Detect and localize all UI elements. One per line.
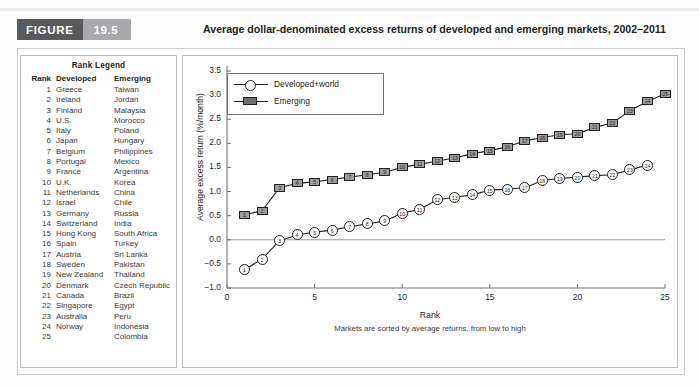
data-point-developed: 6 [327, 225, 338, 236]
cell-rank: 23 [21, 312, 56, 322]
header-rule [0, 8, 699, 11]
cell-emerging: Russia [114, 209, 176, 219]
cell-emerging: Hungary [114, 136, 176, 146]
cell-developed: Canada [56, 291, 114, 301]
table-row: 20DenmarkCzech Republic [21, 281, 176, 291]
y-axis-tick-label: 0.0 [195, 234, 221, 244]
cell-developed: Israel [56, 198, 114, 208]
cell-developed: New Zealand [56, 270, 114, 280]
data-point-emerging: 25 [660, 90, 671, 98]
legend-entry-developed: Developed+world [234, 78, 339, 90]
cell-developed: Hong Kong [56, 229, 114, 239]
table-row: 25Colombia [21, 332, 176, 342]
cell-developed: Italy [56, 126, 114, 136]
legend-entry-emerging: Emerging [234, 95, 310, 107]
cell-rank: 18 [21, 260, 56, 270]
square-marker-icon [234, 95, 268, 107]
cell-developed: Singapore [56, 301, 114, 311]
cell-developed: Australia [56, 312, 114, 322]
cell-emerging: Peru [114, 312, 176, 322]
column-header-rank: Rank [21, 74, 56, 85]
cell-emerging: Egypt [114, 301, 176, 311]
data-point-emerging: 6 [327, 176, 338, 184]
legend-label-emerging: Emerging [274, 96, 310, 106]
cell-emerging: Czech Republic [114, 281, 176, 291]
rank-legend-panel: Rank Legend Rank Developed Emerging 1Gre… [20, 55, 177, 368]
cell-emerging: Malaysia [114, 106, 176, 116]
table-row: 24NorwayIndonesia [21, 322, 176, 332]
cell-rank: 13 [21, 209, 56, 219]
data-point-emerging: 13 [449, 154, 460, 162]
data-point-emerging: 23 [624, 107, 635, 115]
table-row: 5ItalyPoland [21, 126, 176, 136]
cell-emerging: India [114, 219, 176, 229]
data-point-emerging: 4 [292, 179, 303, 187]
cell-emerging: Philippines [114, 147, 176, 157]
y-axis-tick-label: −0.5 [195, 258, 221, 268]
cell-rank: 2 [21, 95, 56, 105]
cell-emerging: Korea [114, 178, 176, 188]
cell-rank: 7 [21, 147, 56, 157]
circle-marker-icon [234, 78, 268, 90]
table-row: 21CanadaBrazil [21, 291, 176, 301]
data-point-emerging: 3 [274, 184, 285, 192]
x-axis-note: Markets are sorted by average returns, f… [183, 324, 677, 333]
cell-rank: 25 [21, 332, 56, 342]
cell-rank: 21 [21, 291, 56, 301]
x-axis-tick-label: 15 [480, 292, 500, 302]
chart-legend: Developed+world Emerging [227, 73, 384, 115]
data-point-developed: 10 [397, 208, 408, 219]
data-point-emerging: 8 [362, 171, 373, 179]
table-row: 1GreeceTaiwan [21, 85, 176, 95]
cell-rank: 1 [21, 85, 56, 95]
cell-developed: U.K. [56, 178, 114, 188]
x-axis-title: Rank [183, 310, 677, 320]
figure-number: 19.5 [83, 19, 131, 40]
table-row: 3FinlandMalaysia [21, 106, 176, 116]
cell-emerging: Taiwan [114, 85, 176, 95]
column-header-emerging: Emerging [114, 74, 176, 85]
cell-emerging: South Africa [114, 229, 176, 239]
data-point-emerging: 22 [607, 119, 618, 127]
cell-developed: Portugal [56, 157, 114, 167]
data-point-developed: 4 [292, 229, 303, 240]
y-axis-tick-label: 1.0 [195, 186, 221, 196]
figure-page: FIGURE 19.5 Average dollar-denominated e… [0, 0, 699, 387]
cell-developed: Denmark [56, 281, 114, 291]
data-point-developed: 20 [572, 172, 583, 183]
table-row: 9FranceArgentina [21, 167, 176, 177]
data-point-developed: 24 [642, 160, 653, 171]
y-axis-tick-label: 1.5 [195, 161, 221, 171]
cell-emerging: Sri Lanka [114, 250, 176, 260]
plot-area: Average excess return (%/month) Rank Mar… [183, 56, 677, 367]
cell-rank: 10 [21, 178, 56, 188]
cell-emerging: Colombia [114, 332, 176, 342]
rank-legend-title: Rank Legend [21, 61, 176, 70]
data-point-emerging: 17 [519, 137, 530, 145]
cell-rank: 9 [21, 167, 56, 177]
table-header-row: Rank Developed Emerging [21, 74, 176, 85]
cell-rank: 22 [21, 301, 56, 311]
cell-rank: 4 [21, 116, 56, 126]
data-point-developed: 16 [502, 184, 513, 195]
cell-developed: Ireland [56, 95, 114, 105]
chart-panel: Average excess return (%/month) Rank Mar… [182, 55, 678, 368]
data-point-developed: 18 [537, 175, 548, 186]
cell-rank: 11 [21, 188, 56, 198]
y-axis-tick-label: 0.5 [195, 210, 221, 220]
table-row: 2IrelandJordan [21, 95, 176, 105]
x-axis-tick-label: 20 [567, 292, 587, 302]
cell-rank: 16 [21, 239, 56, 249]
cell-emerging: Jordan [114, 95, 176, 105]
table-row: 6JapanHungary [21, 136, 176, 146]
data-point-developed: 2 [257, 254, 268, 265]
cell-developed: Belgium [56, 147, 114, 157]
table-row: 4U.S.Morocco [21, 116, 176, 126]
data-point-developed: 5 [309, 227, 320, 238]
table-row: 22SingaporeEgypt [21, 301, 176, 311]
cell-developed: Germany [56, 209, 114, 219]
cell-emerging: Indonesia [114, 322, 176, 332]
table-row: 23AustraliaPeru [21, 312, 176, 322]
data-point-developed: 13 [449, 192, 460, 203]
data-point-emerging: 12 [432, 157, 443, 165]
